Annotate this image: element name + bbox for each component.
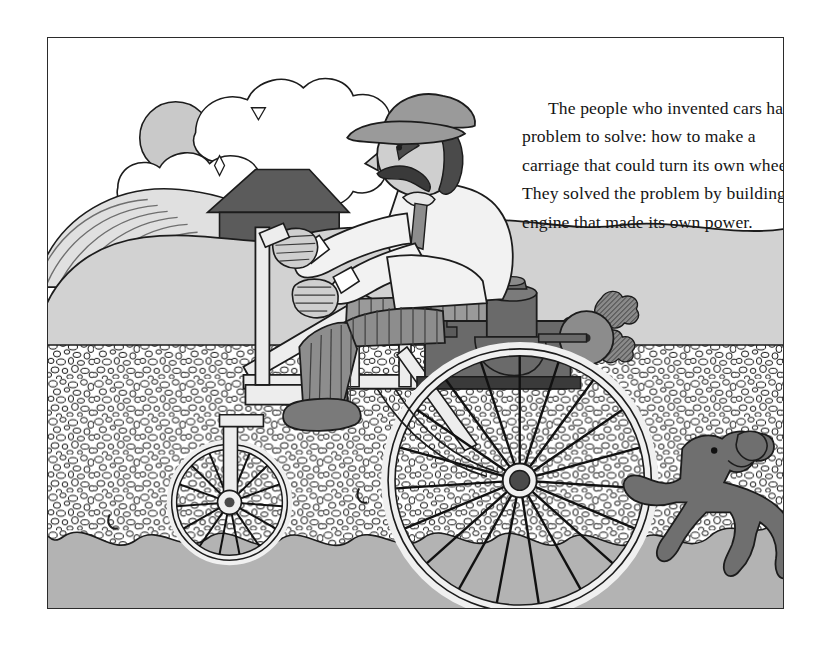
driver-hand-lower <box>292 279 338 318</box>
driver-shoe <box>283 399 361 431</box>
driver-eye <box>396 145 402 151</box>
illustration-frame: The people who invented cars had a probl… <box>47 37 784 609</box>
illustration-scene <box>48 38 783 608</box>
page-root: The people who invented cars had a probl… <box>0 0 813 648</box>
dog-eye <box>711 447 717 453</box>
